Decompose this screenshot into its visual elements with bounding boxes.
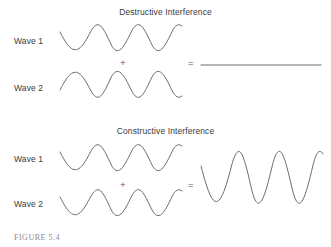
destructive-plus-sign: + — [120, 58, 126, 68]
constructive-wave1-label: Wave 1 — [14, 154, 43, 164]
destructive-equals-sign: = — [188, 58, 194, 68]
constructive-result-curve — [201, 152, 323, 220]
constructive-plus-sign: + — [120, 180, 126, 190]
constructive-equals-sign: = — [188, 180, 194, 190]
destructive-wave1-label: Wave 1 — [14, 36, 43, 46]
constructive-wave2-curve — [60, 190, 182, 224]
destructive-wave2-label: Wave 2 — [14, 83, 43, 93]
constructive-wave2-label: Wave 2 — [14, 199, 43, 209]
constructive-section-title: Constructive Interference — [0, 126, 331, 136]
interference-figure: Destructive Interference Wave 1 + Wave 2… — [0, 0, 331, 247]
destructive-wave2-curve — [60, 71, 182, 105]
constructive-wave1-curve — [60, 145, 182, 179]
destructive-wave1-curve — [60, 25, 182, 59]
destructive-section-title: Destructive Interference — [0, 7, 331, 17]
destructive-result-flat-line — [201, 60, 321, 70]
figure-caption: FIGURE 5.4 — [14, 233, 60, 242]
